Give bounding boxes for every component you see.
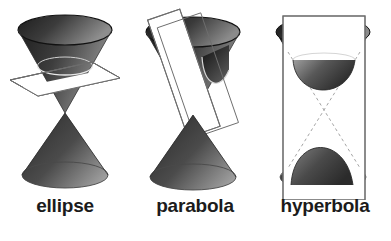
figure-parabola: parabola — [130, 0, 260, 241]
ellipse-label: ellipse — [0, 196, 130, 215]
conic-sections-row: ellipse — [0, 0, 391, 241]
parabola-label: parabola — [130, 196, 260, 215]
ellipse-upper-cone — [18, 15, 112, 113]
hyperbola-label: hyperbola — [260, 196, 390, 215]
figure-ellipse: ellipse — [0, 0, 130, 241]
parabola-lower-cone — [150, 115, 236, 190]
ellipse-diagram — [0, 0, 130, 200]
ellipse-lower-cone — [22, 113, 108, 188]
figure-hyperbola: hyperbola — [260, 0, 390, 241]
hyperbola-diagram — [260, 0, 390, 200]
parabola-diagram — [130, 0, 260, 200]
